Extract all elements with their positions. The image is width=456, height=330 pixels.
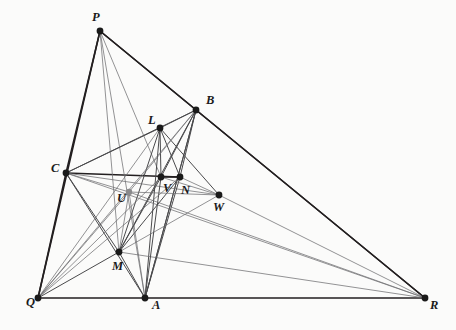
vertex-B[interactable] — [193, 107, 200, 114]
label-layer: PBLCVNUWMQAR — [26, 10, 438, 312]
vertex-label-U: U — [117, 191, 127, 205]
segment-PB — [100, 31, 196, 110]
vertex-C[interactable] — [63, 170, 70, 177]
vertex-label-M: M — [111, 259, 124, 273]
vertex-M[interactable] — [116, 249, 123, 256]
segment-PC — [66, 31, 100, 173]
segment-MQ — [38, 252, 119, 298]
segment-QN — [38, 177, 180, 298]
vertex-label-Q: Q — [26, 295, 35, 309]
vertex-label-P: P — [92, 10, 100, 24]
vertex-Q[interactable] — [35, 295, 42, 302]
vertex-U[interactable] — [126, 189, 132, 195]
geometry-figure: PBLCVNUWMQAR — [0, 0, 456, 330]
vertex-label-N: N — [180, 183, 191, 197]
vertex-label-R: R — [429, 298, 438, 312]
vertex-R[interactable] — [422, 295, 429, 302]
vertex-label-W: W — [213, 200, 225, 214]
segment-layer — [38, 31, 425, 298]
vertex-label-C: C — [51, 161, 60, 175]
segment-QU — [38, 192, 129, 298]
segment-CQ — [38, 173, 66, 298]
segment-PM — [100, 31, 119, 252]
vertex-label-L: L — [147, 113, 156, 127]
segment-CA — [66, 173, 145, 298]
segment-CU — [66, 173, 129, 192]
segment-UR — [129, 192, 425, 298]
vertex-L[interactable] — [157, 125, 164, 132]
vertex-N[interactable] — [177, 174, 184, 181]
vertex-label-A: A — [151, 298, 160, 312]
segment-PV — [100, 31, 161, 177]
vertex-label-B: B — [205, 93, 214, 107]
segment-LN — [160, 128, 180, 177]
segment-BR — [196, 110, 425, 298]
vertex-layer — [35, 28, 429, 302]
vertex-P[interactable] — [97, 28, 104, 35]
geometry-canvas: PBLCVNUWMQAR — [0, 0, 456, 330]
vertex-W[interactable] — [216, 192, 223, 199]
vertex-A[interactable] — [142, 295, 149, 302]
vertex-V[interactable] — [158, 174, 165, 181]
segment-LC — [66, 128, 160, 173]
